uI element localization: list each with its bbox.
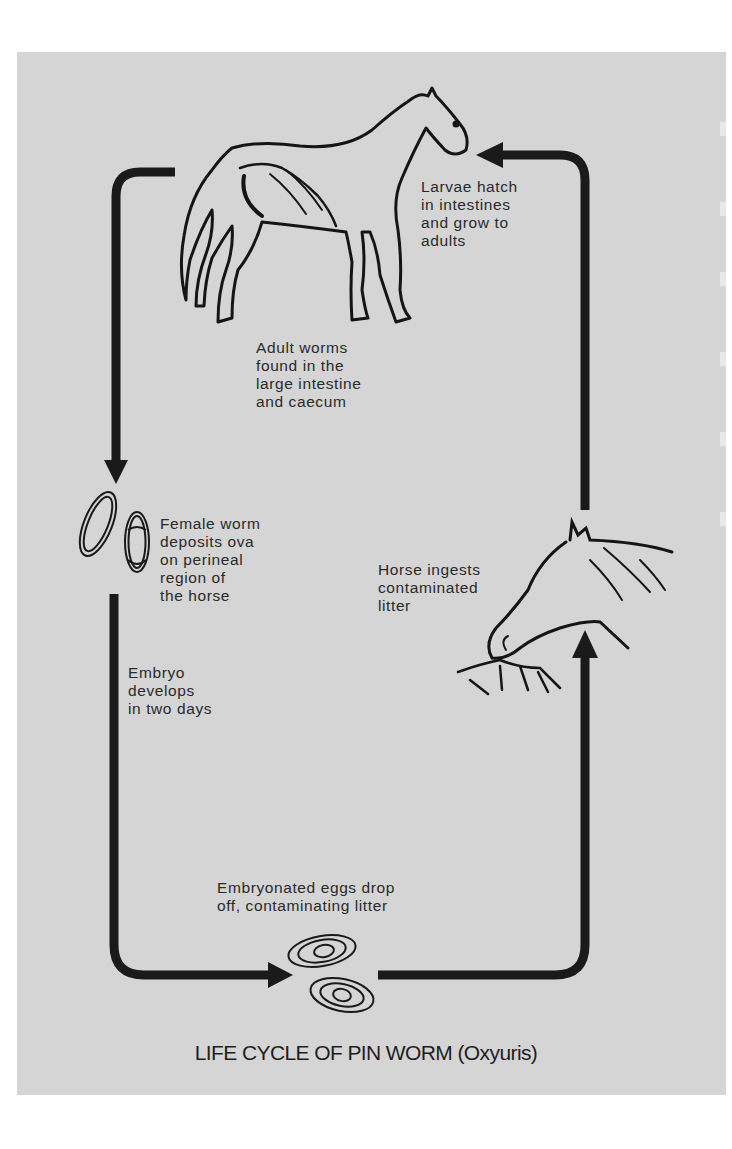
horse-head-icon: [458, 522, 672, 694]
diagram-title: LIFE CYCLE OF PIN WORM (Oxyuris): [0, 1041, 732, 1065]
ova-eggs-icon: [72, 487, 149, 572]
label-adult-worms: Adult worms found in the large intestine…: [256, 339, 362, 411]
label-embryo: Embryo develops in two days: [128, 664, 212, 718]
label-horse-ingests: Horse ingests contaminated litter: [378, 561, 481, 615]
arrowhead-down-icon: [104, 460, 128, 484]
arrow-adult-to-ova: [116, 172, 175, 462]
arrowhead-left-icon: [476, 142, 503, 168]
cycle-arrows: [0, 0, 732, 1149]
arrow-eggs-to-ingest: [378, 655, 585, 975]
arrow-embryo-to-eggs: [114, 594, 270, 975]
label-female-worm: Female worm deposits ova on perineal reg…: [160, 515, 260, 605]
label-larvae-hatch: Larvae hatch in intestines and grow to a…: [421, 178, 518, 250]
arrowhead-right-icon: [268, 962, 293, 988]
label-embryonated-eggs: Embryonated eggs drop off, contaminating…: [217, 879, 395, 915]
spiral-eggs-icon: [286, 930, 377, 1017]
arrowhead-up-icon: [572, 630, 598, 658]
